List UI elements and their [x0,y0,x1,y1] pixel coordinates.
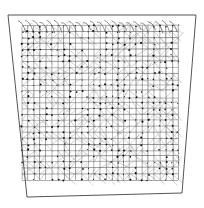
artwork-canvas [0,0,204,208]
trapezoid-frame [8,15,196,197]
grid-drawing [0,0,204,208]
